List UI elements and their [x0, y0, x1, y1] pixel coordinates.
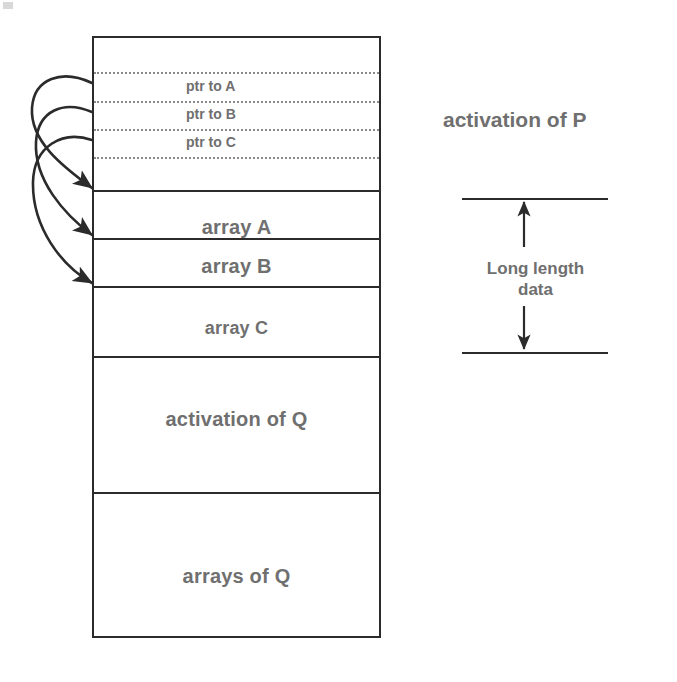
divider-array-b-array-c	[92, 286, 381, 288]
pointer-slot-divider-b-c	[94, 129, 379, 131]
stack-cell-label-activation-q: activation of Q	[92, 408, 381, 431]
divider-array-c-activation-q	[92, 356, 381, 358]
activation-of-p-label: activation of P	[443, 108, 587, 132]
long-length-data-label-line2: data	[443, 279, 628, 300]
divider-above-array-a	[92, 190, 381, 192]
stack-cell-label-ptr-b: ptr to B	[186, 106, 236, 122]
pointer-slot-divider-bottom	[94, 157, 379, 159]
stack-cell-label-arrays-q: arrays of Q	[92, 565, 381, 588]
scan-artifact-mark	[3, 2, 13, 9]
stack-cell-label-ptr-a: ptr to A	[186, 78, 235, 94]
divider-activation-q-arrays-q	[92, 492, 381, 494]
diagram-canvas: ptr to A ptr to B ptr to C array A array…	[0, 0, 677, 682]
dimension-rule-top	[462, 198, 608, 200]
dimension-rule-bottom	[462, 352, 608, 354]
stack-cell-label-array-c: array C	[92, 318, 381, 339]
pointer-slot-divider-top	[94, 72, 379, 74]
pointer-slot-divider-a-b	[94, 101, 379, 103]
stack-cell-label-array-b: array B	[92, 255, 381, 278]
stack-cell-label-array-a: array A	[92, 216, 381, 239]
pointer-arrow-a-to-array-a	[32, 77, 92, 188]
stack-cell-label-ptr-c: ptr to C	[186, 134, 236, 150]
long-length-data-label-line1: Long length	[443, 258, 628, 279]
pointer-arrow-c-to-array-c	[33, 137, 92, 283]
pointer-arrow-b-to-array-b	[36, 107, 92, 235]
